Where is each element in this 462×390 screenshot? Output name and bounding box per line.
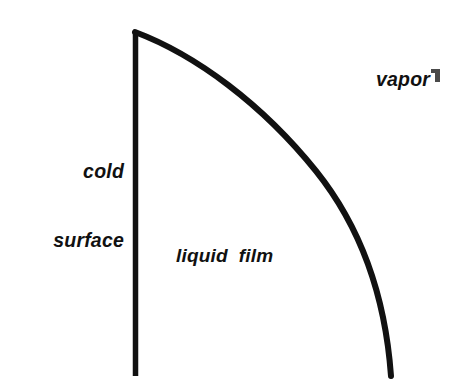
- label-cold-surface: cold surface: [12, 114, 124, 298]
- label-cold-surface-line-2: surface: [12, 229, 124, 252]
- film-condensation-diagram: cold surface vapor liquid film: [0, 0, 462, 390]
- label-vapor: vapor: [376, 68, 430, 91]
- label-liquid-film: liquid film: [176, 245, 273, 267]
- scan-artifact: [431, 69, 440, 82]
- label-cold-surface-line-1: cold: [12, 160, 124, 183]
